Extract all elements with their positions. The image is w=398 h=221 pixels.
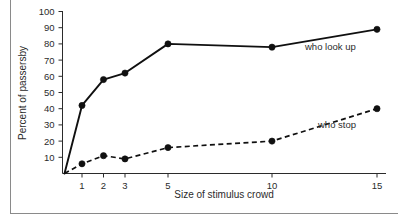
y-tick-label: 90 (44, 22, 55, 33)
x-axis-title: Size of stimulus crowd (174, 189, 273, 200)
data-point-marker (374, 26, 380, 32)
y-axis-title: Percent of passersby (17, 46, 28, 140)
y-tick-label: 80 (44, 38, 55, 49)
y-tick-label: 60 (44, 71, 55, 82)
series-label-who-look-up: who look up (304, 41, 356, 52)
y-tick-label: 30 (44, 119, 55, 130)
y-tick-label: 50 (44, 87, 55, 98)
series-markers-who-look-up (79, 26, 380, 108)
data-point-marker (165, 41, 171, 47)
data-point-marker (165, 144, 171, 150)
figure-root: 102030405060708090100 12351015 Size of s… (0, 0, 398, 221)
data-point-marker (100, 76, 106, 82)
data-point-marker (269, 44, 275, 50)
series-label-who-stop: who stop (317, 119, 356, 130)
y-tick-label: 10 (44, 152, 55, 163)
x-tick-label: 2 (101, 180, 106, 191)
data-point-marker (100, 153, 106, 159)
x-tick-label: 1 (79, 180, 84, 191)
x-tick-label: 5 (165, 180, 170, 191)
x-tick-label: 3 (122, 180, 127, 191)
x-axis-ticks (82, 174, 377, 178)
data-point-marker (374, 106, 380, 112)
data-point-marker (79, 161, 85, 167)
y-tick-label: 70 (44, 55, 55, 66)
data-point-marker (122, 156, 128, 162)
data-point-marker (79, 102, 85, 108)
y-tick-label: 20 (44, 136, 55, 147)
data-point-marker (122, 70, 128, 76)
y-tick-label: 100 (39, 6, 55, 17)
x-tick-label: 15 (372, 180, 383, 191)
y-axis-tick-labels: 102030405060708090100 (39, 6, 55, 163)
data-point-marker (269, 138, 275, 144)
y-axis-ticks (59, 12, 63, 158)
y-tick-label: 40 (44, 103, 55, 114)
series-markers-who-stop (79, 106, 380, 167)
line-chart: 102030405060708090100 12351015 Size of s… (0, 0, 398, 221)
